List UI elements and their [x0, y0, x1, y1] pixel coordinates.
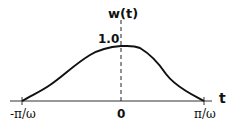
- tick-label-center: 0: [117, 107, 125, 121]
- tick-label-right: π/ω: [194, 107, 216, 121]
- peak-label: 1.0: [98, 32, 119, 46]
- window-function-diagram: w(t) 1.0 t -π/ω 0 π/ω: [0, 0, 236, 132]
- window-curve: [22, 46, 204, 101]
- tick-label-left: -π/ω: [10, 107, 36, 121]
- y-axis-label: w(t): [108, 6, 138, 21]
- x-axis-label: t: [219, 90, 226, 106]
